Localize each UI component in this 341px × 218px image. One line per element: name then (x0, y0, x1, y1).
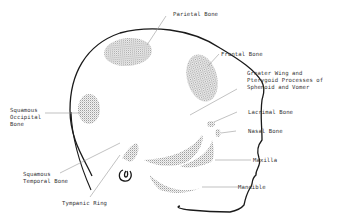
tympanic-ring (119, 170, 131, 181)
label-squamous-occipital: Squamous Occipital Bone (10, 107, 41, 128)
lacrimal-patch (207, 121, 215, 127)
skull-diagram: Parietal Bone Frontal Bone Greater Wing … (0, 0, 341, 218)
temporal-patch (122, 143, 138, 162)
label-nasal-bone: Nasal Bone (248, 128, 283, 135)
frontal-patch (181, 51, 222, 105)
label-mandible: Mandible (238, 184, 266, 191)
mandible-patch (150, 175, 200, 193)
label-lacrimal-bone: Lacrimal Bone (248, 109, 293, 116)
nasal-patch (216, 129, 221, 137)
label-sphenoid-vomer: Greater Wing and Pterygoid Processes of … (247, 70, 323, 91)
label-maxilla: Maxilla (253, 157, 277, 164)
occipital-patch (78, 94, 100, 124)
label-tympanic-ring: Tympanic Ring (62, 200, 107, 207)
leader-lines (45, 16, 251, 197)
label-squamous-temporal: Squamous Temporal Bone (23, 171, 68, 185)
parietal-patch (103, 36, 153, 68)
label-frontal-bone: Frontal Bone (221, 51, 263, 58)
label-parietal-bone: Parietal Bone (173, 11, 218, 18)
